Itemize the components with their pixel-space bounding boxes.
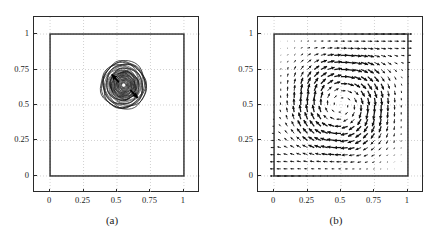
panel-b: 00.250.50.75100.250.50.751 (b) [224, 0, 448, 247]
y-tick-mark [257, 104, 261, 105]
x-tick-label: 0.25 [299, 196, 314, 205]
gridlines [34, 17, 200, 193]
y-tick-label: 0 [7, 171, 29, 180]
axes-box-a [33, 16, 199, 192]
contour-plot-a [34, 17, 200, 193]
y-tick-mark [33, 33, 37, 34]
y-tick-label: 1 [231, 29, 253, 38]
x-tick-mark [149, 189, 150, 193]
figure-two-panel: 00.250.50.75100.250.50.751 (a) 00.250.50… [0, 0, 448, 247]
x-tick-mark [307, 189, 308, 193]
y-tick-mark [33, 139, 37, 140]
x-tick-label: 1 [181, 196, 185, 205]
panel-caption-b: (b) [224, 214, 448, 226]
gridlines [258, 17, 424, 193]
quiver-plot-b [258, 17, 424, 193]
axes-box-b [257, 16, 423, 192]
y-tick-mark [257, 69, 261, 70]
x-tick-mark [83, 189, 84, 193]
x-tick-mark [373, 189, 374, 193]
x-tick-mark [49, 189, 50, 193]
x-tick-label: 0.5 [111, 196, 122, 205]
x-tick-label: 0 [271, 196, 275, 205]
x-tick-label: 0.25 [75, 196, 90, 205]
x-tick-label: 0 [47, 196, 51, 205]
y-tick-mark [33, 175, 37, 176]
y-tick-mark [257, 33, 261, 34]
y-tick-mark [33, 69, 37, 70]
y-tick-label: 0.25 [7, 135, 29, 144]
x-tick-label: 0.75 [366, 196, 381, 205]
y-tick-label: 0.75 [7, 64, 29, 73]
y-tick-mark [33, 104, 37, 105]
y-tick-label: 0.5 [7, 100, 29, 109]
panel-caption-a: (a) [0, 214, 224, 226]
y-tick-label: 0 [231, 171, 253, 180]
x-tick-mark [340, 189, 341, 193]
y-tick-mark [257, 139, 261, 140]
x-tick-mark [183, 189, 184, 193]
x-tick-label: 1 [405, 196, 409, 205]
x-tick-label: 0.5 [335, 196, 346, 205]
y-tick-label: 0.25 [231, 135, 253, 144]
x-tick-label: 0.75 [142, 196, 157, 205]
x-tick-mark [273, 189, 274, 193]
y-tick-label: 1 [7, 29, 29, 38]
panel-a: 00.250.50.75100.250.50.751 (a) [0, 0, 224, 247]
y-tick-label: 0.75 [231, 64, 253, 73]
y-tick-mark [257, 175, 261, 176]
contour-center-marker [122, 83, 126, 87]
y-tick-label: 0.5 [231, 100, 253, 109]
x-tick-mark [407, 189, 408, 193]
x-tick-mark [116, 189, 117, 193]
